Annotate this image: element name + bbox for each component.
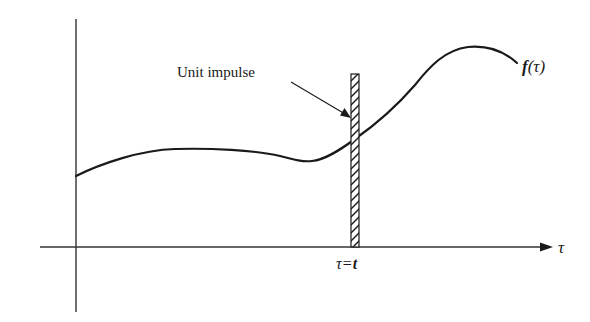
axis-variable-label: τ bbox=[558, 238, 565, 257]
impulse-position-eq: = bbox=[343, 255, 352, 272]
function-label: f(τ) bbox=[522, 57, 545, 76]
function-arg: (τ) bbox=[528, 57, 546, 76]
function-curve bbox=[76, 47, 517, 176]
impulse-position-rhs: t bbox=[353, 255, 358, 272]
pointer-arrowhead-icon bbox=[340, 108, 351, 118]
unit-impulse-label: Unit impulse bbox=[177, 64, 255, 80]
impulse-position-label: τ=t bbox=[336, 255, 358, 272]
convolution-diagram: Unit impulse f(τ) τ τ=t bbox=[0, 0, 590, 322]
impulse-pointer-line bbox=[291, 82, 345, 114]
axis-arrowhead-icon bbox=[540, 243, 553, 252]
unit-impulse-bar bbox=[351, 74, 359, 247]
